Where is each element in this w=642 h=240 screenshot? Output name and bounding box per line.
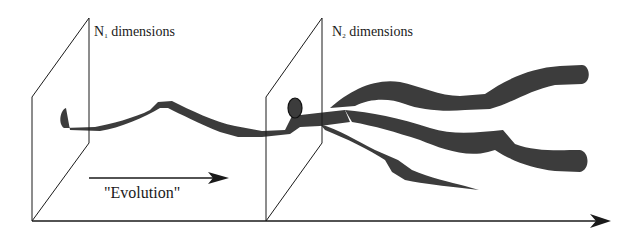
crossing-ring — [288, 98, 302, 118]
plane-n1-label-prefix: N — [94, 24, 104, 39]
trajectory-tube — [60, 65, 588, 190]
plane-n2-label-suffix: dimensions — [346, 24, 413, 39]
evolution-diagram: N1 dimensions N2 dimensions "Evolution" — [0, 0, 642, 240]
plane-n2-label: N2 dimensions — [332, 24, 413, 40]
evolution-arrow — [89, 172, 229, 184]
time-axis — [32, 214, 611, 228]
evolution-label: "Evolution" — [104, 184, 180, 202]
lower-branch — [345, 110, 588, 172]
plane-n1-label-suffix: dimensions — [108, 24, 175, 39]
upper-branch — [330, 65, 589, 111]
main-trunk — [60, 101, 350, 137]
plane-n1-label: N1 dimensions — [94, 24, 175, 40]
plane-n2-label-prefix: N — [332, 24, 342, 39]
